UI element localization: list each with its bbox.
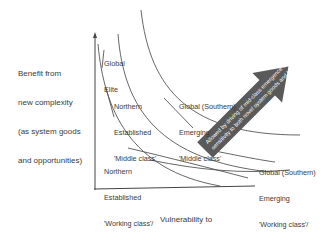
label-line: 'Working class'/ (104, 220, 153, 229)
label-line: Northern (114, 103, 156, 112)
y-axis-label-line: and opportunities) (18, 156, 82, 166)
label-southern-middle-class: Global (Southern) Emerging 'Middle class… (179, 86, 236, 172)
y-axis-label-line: Benefit from (18, 69, 82, 79)
y-axis-label: Benefit from new complexity (as system g… (18, 50, 82, 175)
label-line: 'Middle class' (179, 155, 236, 164)
label-line: Global (Southern) (259, 169, 316, 178)
label-line: Emerging (259, 195, 316, 204)
label-line: Established (104, 194, 153, 203)
label-line: 'Working class'/ (259, 221, 316, 230)
y-axis-label-line: (as system goods (18, 127, 82, 137)
label-line: Global (Southern) (179, 103, 236, 112)
label-line: Northern (104, 168, 153, 177)
y-axis-label-line: new complexity (18, 98, 82, 108)
y-axis-arrowhead-icon (93, 32, 97, 38)
x-axis-label: Vulnerability to new complexity (as syst… (160, 196, 218, 243)
label-northern-working-class: Northern Established 'Working class'/ Pr… (104, 151, 153, 243)
label-line: Established (114, 129, 156, 138)
label-southern-working-class: Global (Southern) Emerging 'Working clas… (259, 152, 316, 243)
label-line: Emerging (179, 129, 236, 138)
x-axis-label-line: Vulnerability to (160, 215, 218, 225)
label-line: Global (104, 60, 125, 69)
